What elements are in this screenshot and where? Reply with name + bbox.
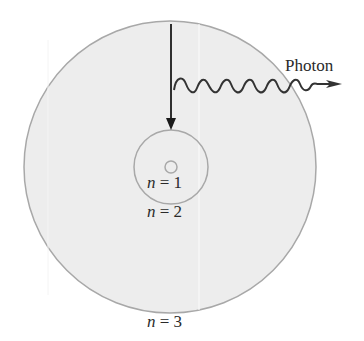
photon-label: Photon xyxy=(285,56,333,76)
n1-value: = 1 xyxy=(156,173,183,192)
diagram-graphic xyxy=(0,0,364,341)
n2-value: = 2 xyxy=(156,202,183,221)
n2-label: n = 2 xyxy=(147,202,182,222)
orbit-n3 xyxy=(24,21,316,313)
n3-label: n = 3 xyxy=(147,312,182,332)
n2-variable: n xyxy=(147,202,156,221)
n1-variable: n xyxy=(147,173,156,192)
n3-value: = 3 xyxy=(156,312,183,331)
n1-label: n = 1 xyxy=(147,173,182,193)
n3-variable: n xyxy=(147,312,156,331)
bohr-diagram: Photon n = 1 n = 2 n = 3 xyxy=(0,0,364,341)
